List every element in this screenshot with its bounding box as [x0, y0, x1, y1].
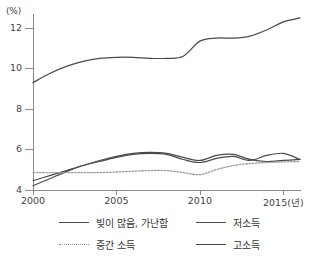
legend-label-high-income: 고소득: [233, 237, 260, 252]
legend-item-middle-income: 중간 소득: [59, 237, 135, 252]
legend-label-indebted-poor: 빚이 많음, 가난함: [96, 215, 168, 230]
line-chart: (%) 12 10 8 6 4 2000 2005 2010 2015(년) 빚…: [0, 0, 314, 261]
legend-item-low-income: 저소득: [196, 215, 260, 230]
legend-label-low-income: 저소득: [233, 215, 260, 230]
legend-line-swatch-solid: [196, 240, 226, 250]
series-line-고소득: [33, 18, 300, 83]
legend-item-indebted-poor: 빚이 많음, 가난함: [59, 215, 168, 230]
legend-item-high-income: 고소득: [196, 237, 260, 252]
series-line-저소득: [33, 153, 300, 180]
legend-line-swatch-solid: [196, 218, 226, 228]
chart-legend: 빚이 많음, 가난함 저소득 중간 소득 고소득: [0, 214, 314, 261]
legend-line-swatch-dotted: [59, 240, 89, 250]
legend-label-middle-income: 중간 소득: [96, 237, 135, 252]
legend-line-swatch-solid: [59, 218, 89, 228]
